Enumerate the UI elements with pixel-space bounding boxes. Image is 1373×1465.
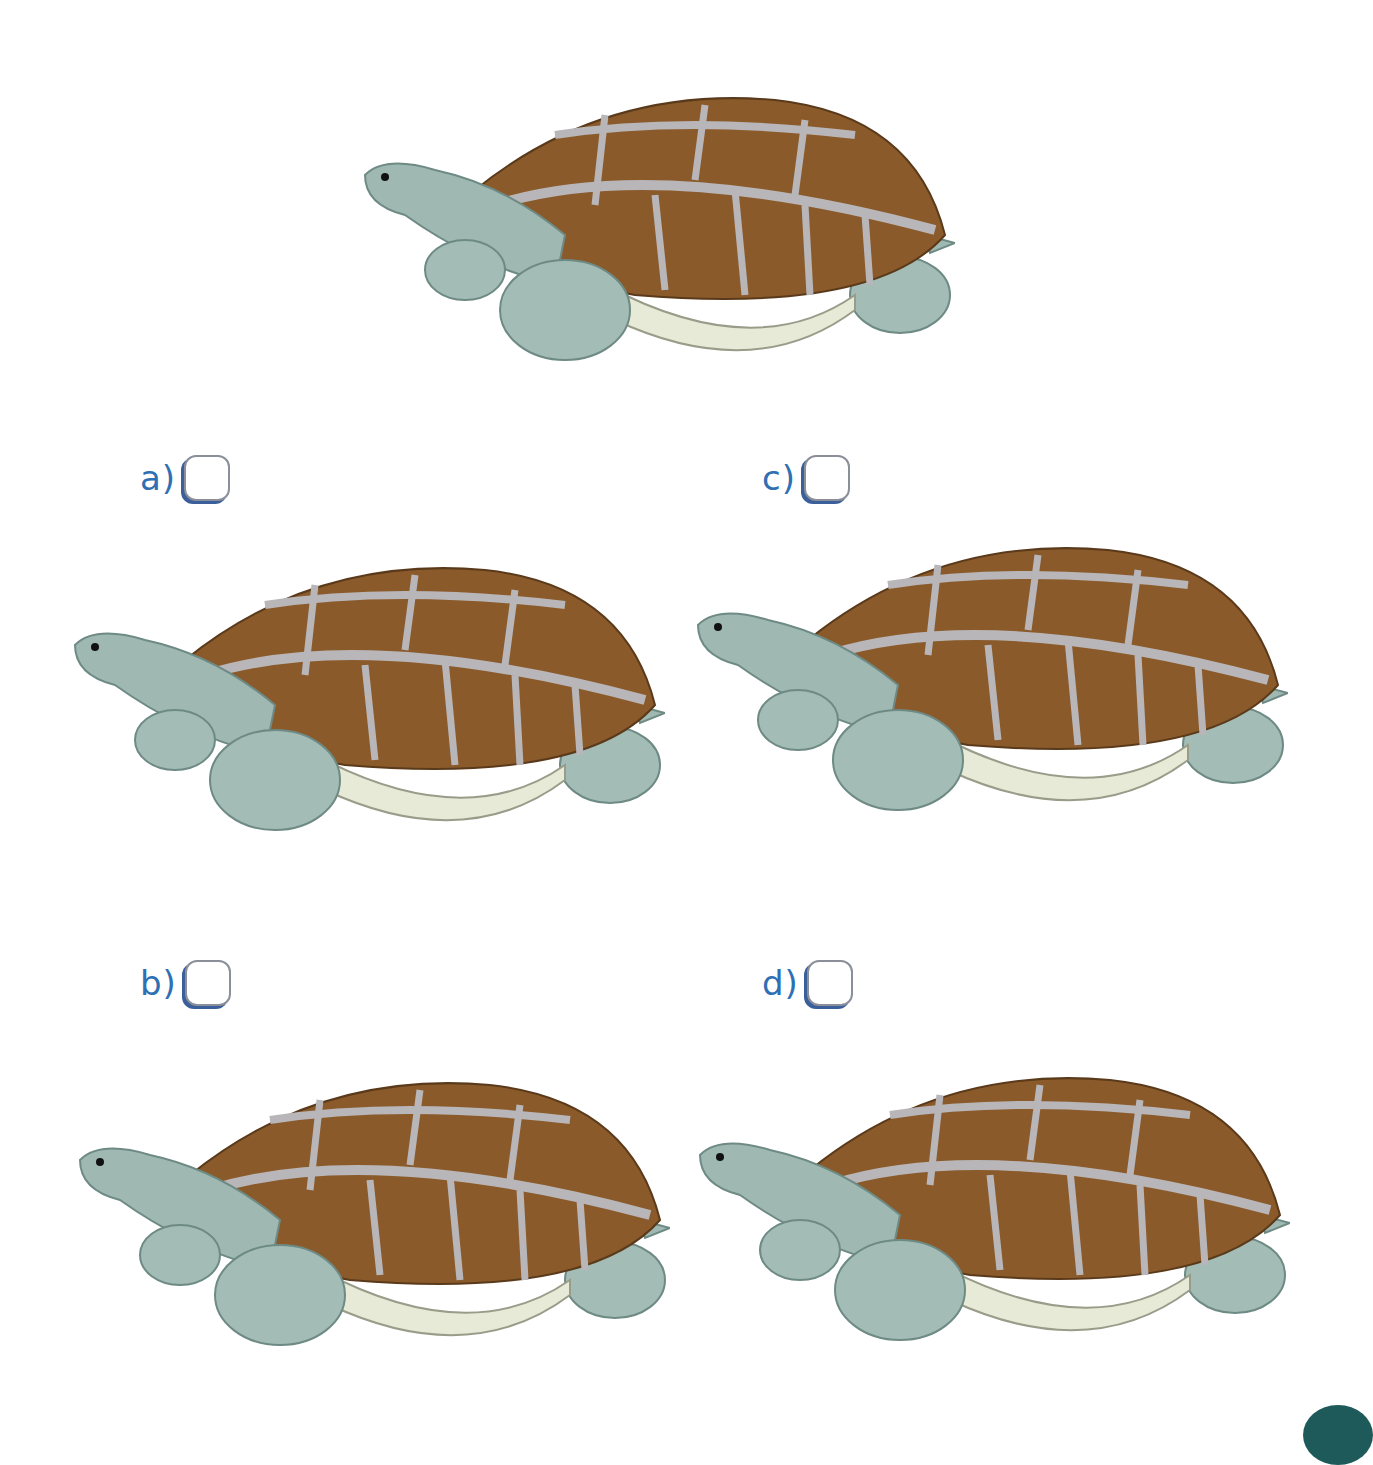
option-b-turtle-image (70, 1060, 670, 1384)
option-c-letter: c) (762, 458, 796, 498)
option-a[interactable]: a) (140, 455, 230, 501)
option-b-checkbox[interactable] (185, 960, 231, 1006)
option-c-checkbox[interactable] (804, 455, 850, 501)
option-b[interactable]: b) (140, 960, 231, 1006)
reference-turtle-image (355, 95, 955, 379)
option-c[interactable]: c) (762, 455, 850, 501)
page-corner-decoration (1303, 1405, 1373, 1465)
option-b-letter: b) (140, 963, 177, 1003)
option-a-checkbox[interactable] (184, 455, 230, 501)
option-d-letter: d) (762, 963, 799, 1003)
option-a-letter: a) (140, 458, 176, 498)
option-d-checkbox[interactable] (807, 960, 853, 1006)
option-c-turtle-image (688, 545, 1288, 879)
option-a-turtle-image (65, 565, 665, 849)
option-d[interactable]: d) (762, 960, 853, 1006)
option-d-turtle-image (690, 1075, 1290, 1359)
